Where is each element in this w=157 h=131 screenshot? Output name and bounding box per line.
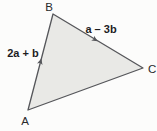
edge-ab-label: 2a + b — [7, 47, 39, 59]
edge-bc-label: a – 3b — [85, 23, 116, 35]
vertex-label-b: B — [45, 1, 53, 13]
figure-canvas: B C A 2a + b a – 3b — [0, 0, 157, 131]
vertex-label-c: C — [148, 63, 156, 75]
edge-bc-label-operator: – — [92, 23, 104, 35]
vertex-label-a: A — [21, 115, 29, 127]
edge-bc-label-vector-b: b — [110, 23, 117, 35]
triangle-vector-diagram: B C A 2a + b a – 3b — [0, 0, 157, 131]
edge-ab-label-operator: + — [19, 47, 32, 59]
edge-ab-label-vector-b: b — [32, 47, 39, 59]
